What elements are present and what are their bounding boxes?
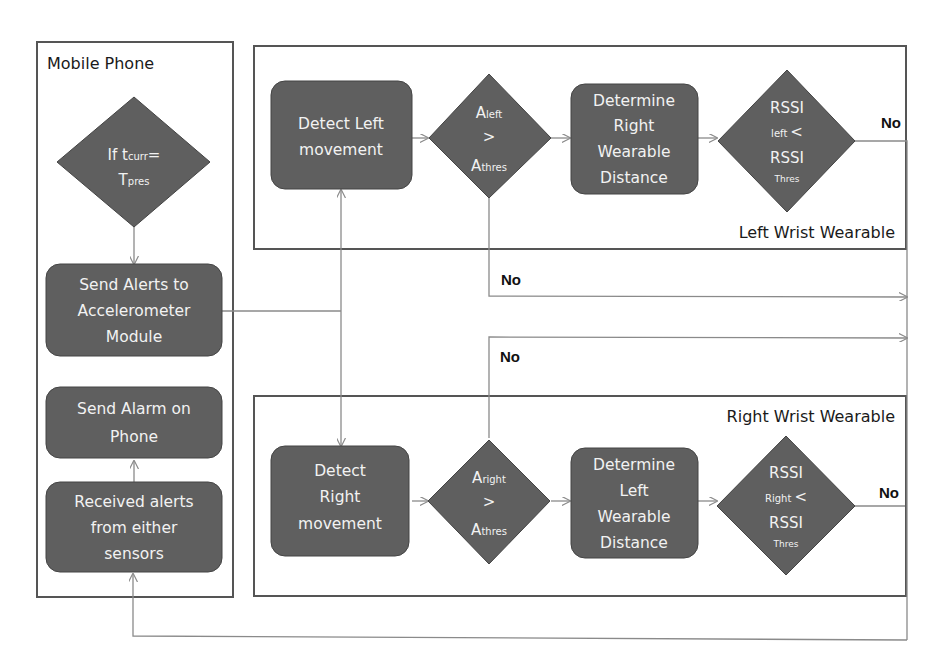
label-right-accel-no: No [500,348,520,365]
distance-right-line-3: Wearable [597,143,670,161]
edge-accel-left-no [489,198,907,297]
rssi-left-top: RSSI [770,99,804,117]
rssi-left-decision[interactable]: RSSI left< RSSI Thres [718,70,855,212]
label-left-accel-no: No [501,271,521,288]
distance-right-line-1: Determine [593,92,675,110]
distance-right-line-2: Right [614,117,655,135]
rssi-right-decision[interactable]: RSSI Right< RSSI Thres [717,436,855,575]
received-line-3: sensors [104,545,163,563]
edge-rssi-left-no [855,141,907,640]
right-wrist-title: Right Wrist Wearable [727,407,895,426]
rssi-left-bottom-sub: Thres [774,174,800,184]
decision-time-check[interactable]: If tcurr= Tpres [57,97,210,227]
accel-left-bottom-sub: thres [481,162,507,173]
rssi-left-bottom: RSSI [770,149,804,167]
distance-right-line-4: Distance [600,169,668,187]
detect-right-node[interactable]: Detect Right movement [271,446,409,556]
mobile-phone-title: Mobile Phone [47,54,154,73]
send-alerts-line-1: Send Alerts to [79,276,188,294]
received-line-1: Received alerts [74,493,193,511]
send-alarm-line-2: Phone [110,428,158,446]
distance-left-line-4: Distance [600,534,668,552]
distance-left-line-1: Determine [593,456,675,474]
edge-return-to-received-alerts [133,574,907,640]
detect-right-line-2: Right [320,488,361,506]
accel-right-top-sub: right [482,474,506,485]
detect-left-line-1: Detect Left [298,115,384,133]
send-alerts-line-2: Accelerometer [78,302,192,320]
rssi-right-mid-sub: Right [765,493,791,504]
accel-right-bottom-sub: thres [481,526,507,537]
rssi-right-op: < [794,488,807,506]
send-alerts-node[interactable]: Send Alerts to Accelerometer Module [46,264,222,356]
accel-left-top-sub: left [486,109,502,120]
accel-left-decision[interactable]: Aleft > Athres [429,74,551,198]
rssi-right-top: RSSI [769,464,803,482]
send-alerts-line-3: Module [106,328,162,346]
time-line1-sub: curr [128,151,149,162]
accel-right-op: > [483,493,496,511]
received-alerts-node[interactable]: Received alerts from either sensors [46,482,222,572]
left-wrist-title: Left Wrist Wearable [739,223,895,242]
label-right-rssi-no: No [879,484,899,501]
distance-right-node[interactable]: Determine Right Wearable Distance [571,84,698,194]
detect-left-line-2: movement [299,141,383,159]
flowchart-canvas: Mobile Phone Left Wrist Wearable Right W… [0,0,942,667]
detect-left-node[interactable]: Detect Left movement [271,81,412,189]
rssi-right-bottom: RSSI [769,514,803,532]
label-left-rssi-no: No [881,114,901,131]
distance-left-line-3: Wearable [597,508,670,526]
received-line-2: from either [91,519,178,537]
distance-left-node[interactable]: Determine Left Wearable Distance [571,448,698,558]
send-alarm-line-1: Send Alarm on [77,400,191,418]
time-line2-sub: pres [128,176,150,187]
send-alarm-node[interactable]: Send Alarm on Phone [46,387,222,458]
rssi-left-mid-sub: left [771,128,787,139]
accel-left-op: > [483,128,496,146]
distance-left-line-2: Left [619,482,648,500]
detect-right-line-3: movement [298,515,382,533]
time-line1-prefix: If t [108,146,128,164]
rssi-left-op: < [790,123,803,141]
accel-right-decision[interactable]: Aright > Athres [428,440,550,564]
time-line1-suffix: = [148,146,161,164]
rssi-right-bottom-sub: Thres [773,539,799,549]
detect-right-line-1: Detect [314,462,366,480]
